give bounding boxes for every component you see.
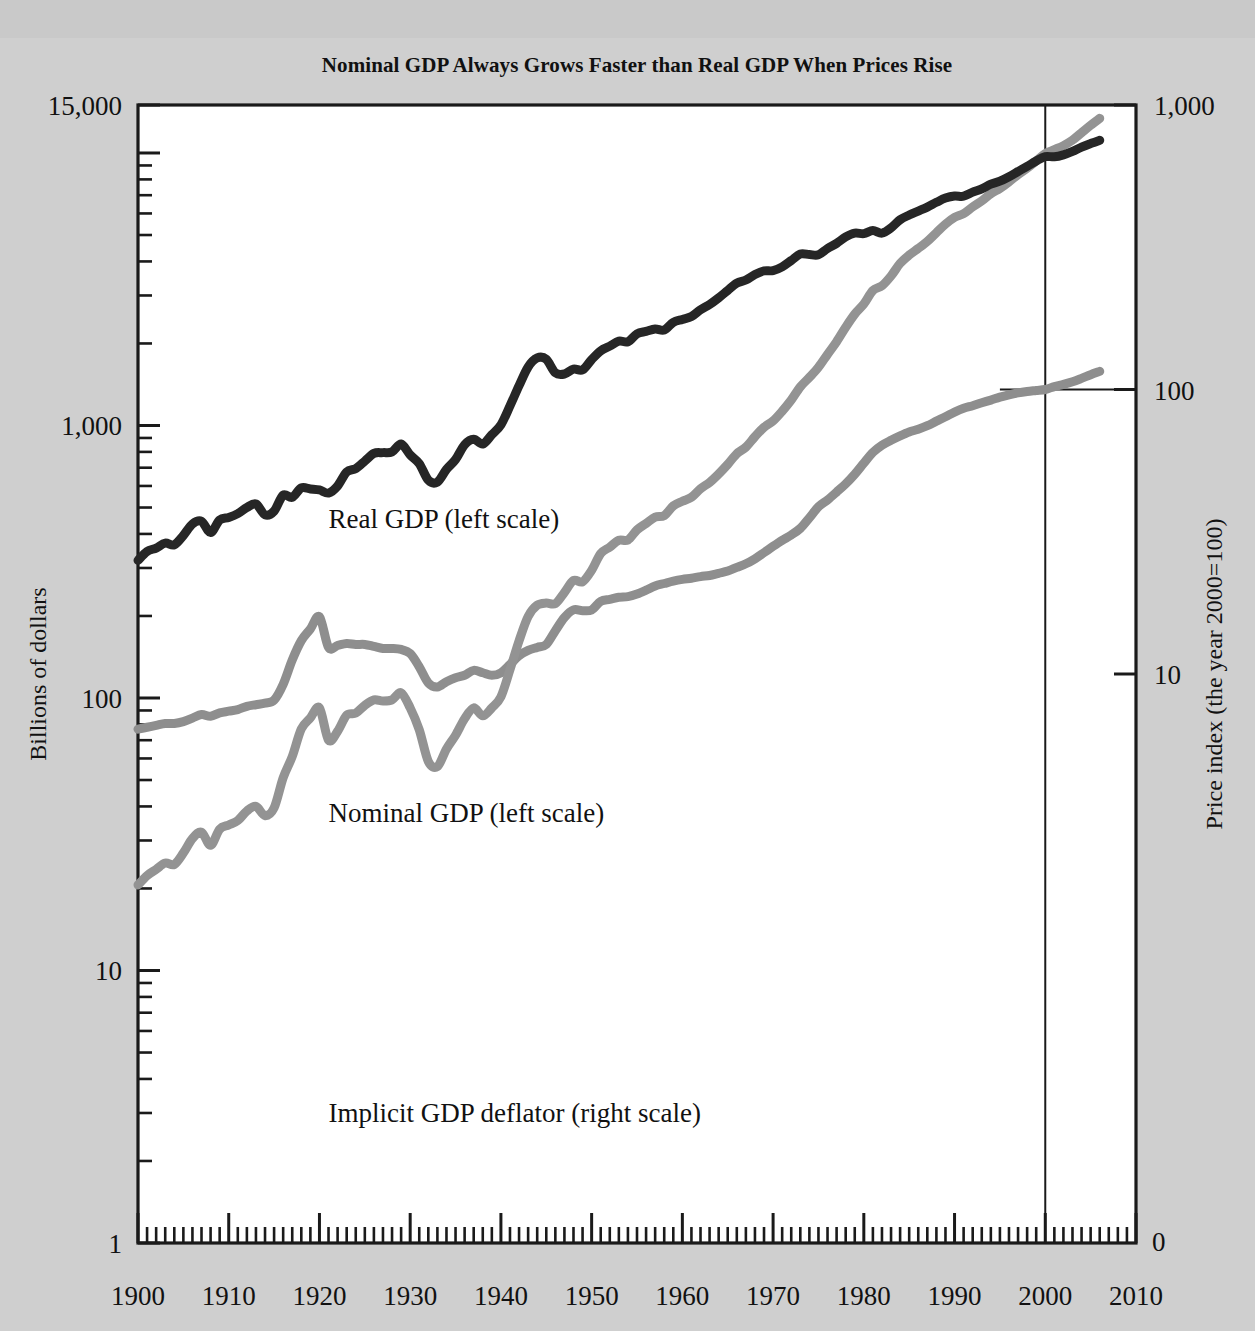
y-tick-label: 15,000 (48, 91, 122, 121)
real-gdp-label: Real GDP (left scale) (329, 504, 560, 534)
y2-tick-label: 100 (1154, 376, 1195, 406)
y-axis-label: Billions of dollars (25, 587, 51, 760)
x-tick-label: 1990 (928, 1281, 982, 1311)
nominal-gdp-label: Nominal GDP (left scale) (329, 798, 605, 828)
y2-tick-label: 1,000 (1154, 91, 1215, 121)
x-tick-label: 1960 (655, 1281, 709, 1311)
x-tick-label: 1900 (111, 1281, 165, 1311)
y2-zero-label: 0 (1152, 1227, 1166, 1257)
x-tick-label: 2010 (1109, 1281, 1163, 1311)
x-tick-label: 1910 (202, 1281, 256, 1311)
x-tick-label: 1970 (746, 1281, 800, 1311)
y-tick-label: 100 (82, 684, 123, 714)
y2-axis-label: Price index (the year 2000=100) (1201, 519, 1227, 830)
x-tick-label: 1920 (292, 1281, 346, 1311)
x-tick-label: 1980 (837, 1281, 891, 1311)
x-tick-label: 1950 (565, 1281, 619, 1311)
x-tick-label: 1930 (383, 1281, 437, 1311)
y-tick-label: 1 (109, 1229, 123, 1259)
deflator-label: Implicit GDP deflator (right scale) (329, 1098, 701, 1128)
y-tick-label: 1,000 (61, 411, 122, 441)
y-tick-label: 10 (95, 956, 122, 986)
chart-title: Nominal GDP Always Grows Faster than Rea… (322, 53, 952, 77)
y2-tick-label: 10 (1154, 660, 1181, 690)
x-tick-label: 2000 (1018, 1281, 1072, 1311)
x-tick-label: 1940 (474, 1281, 528, 1311)
figure-canvas: 1101001,00015,000Billions of dollars1010… (0, 0, 1255, 1331)
gdp-chart: 1101001,00015,000Billions of dollars1010… (0, 0, 1255, 1331)
